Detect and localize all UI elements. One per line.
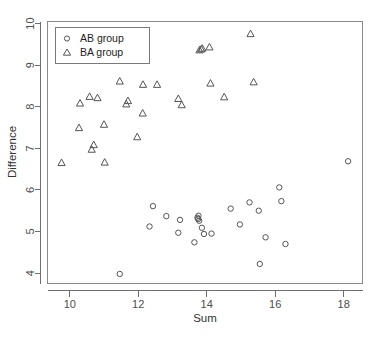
legend-label-ab: AB group (80, 32, 124, 44)
y-tick-label: 7 (24, 145, 36, 151)
y-tick-label: 9 (24, 62, 36, 68)
y-axis-title: Difference (6, 126, 18, 178)
scatter-plot-figure: 1012141618 Sum 45678910 Difference AB gr… (0, 0, 377, 341)
plot-svg: 1012141618 Sum 45678910 Difference AB gr… (0, 0, 377, 341)
x-tick-label: 12 (132, 298, 144, 310)
x-axis-title: Sum (193, 312, 217, 324)
y-tick-label: 8 (24, 104, 36, 110)
legend-label-ba: BA group (80, 46, 123, 58)
legend: AB group BA group (56, 28, 150, 64)
y-tick-label: 4 (24, 270, 36, 276)
x-tick-label: 16 (269, 298, 281, 310)
x-tick-label: 14 (201, 298, 213, 310)
x-tick-label: 18 (338, 298, 350, 310)
y-tick-label: 6 (24, 187, 36, 193)
y-tick-label: 10 (24, 17, 36, 29)
y-tick-label: 5 (24, 228, 36, 234)
x-tick-label: 10 (64, 298, 76, 310)
